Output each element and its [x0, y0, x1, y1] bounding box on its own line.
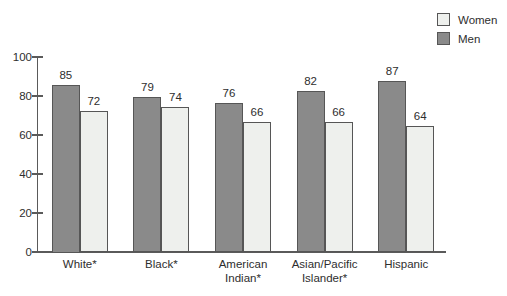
- y-axis-line: [37, 56, 39, 253]
- y-tick-label: 100: [0, 50, 32, 65]
- women-swatch-icon: [437, 13, 450, 26]
- bar-men: [133, 97, 161, 253]
- x-category-label: Hispanic: [351, 257, 461, 271]
- y-tick-mark: [32, 95, 44, 97]
- legend-item-men: Men: [437, 32, 497, 45]
- y-tick-mark: [32, 56, 44, 58]
- y-tick-label: 40: [0, 167, 32, 182]
- bar-women: [243, 122, 271, 252]
- bar-value-label: 87: [372, 64, 412, 78]
- bar-women: [161, 107, 189, 253]
- bar-chart: 0204060801008572White*7974Black*7666Amer…: [0, 0, 507, 296]
- bar-value-label: 64: [400, 109, 440, 123]
- y-tick-mark: [32, 212, 44, 214]
- bar-value-label: 72: [74, 94, 114, 108]
- bar-value-label: 76: [209, 86, 249, 100]
- y-tick-label: 80: [0, 89, 32, 104]
- y-tick-mark: [32, 173, 44, 175]
- bar-value-label: 85: [46, 68, 86, 82]
- y-tick-mark: [32, 134, 44, 136]
- bar-value-label: 82: [291, 74, 331, 88]
- men-swatch-icon: [437, 32, 450, 45]
- legend: Women Men: [437, 13, 497, 51]
- bar-men: [378, 81, 406, 252]
- bar-value-label: 66: [319, 105, 359, 119]
- bar-men: [215, 103, 243, 253]
- legend-label-men: Men: [458, 33, 480, 45]
- y-tick-mark: [32, 251, 44, 253]
- bar-women: [406, 126, 434, 252]
- bar-women: [80, 111, 108, 253]
- legend-item-women: Women: [437, 13, 497, 26]
- y-tick-label: 60: [0, 128, 32, 143]
- bar-value-label: 66: [237, 105, 277, 119]
- bar-value-label: 74: [155, 90, 195, 104]
- legend-label-women: Women: [458, 14, 497, 26]
- bar-women: [325, 122, 353, 252]
- y-tick-label: 20: [0, 206, 32, 221]
- bar-men: [52, 85, 80, 252]
